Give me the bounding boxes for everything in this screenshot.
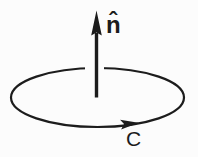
- curve-gap-mask: [85, 62, 104, 74]
- normal-vector-loop-diagram: n̂ C: [0, 0, 198, 157]
- curve-label: C: [126, 127, 141, 150]
- normal-vector-label: n̂: [106, 11, 121, 38]
- diagram-canvas: n̂ C: [0, 0, 198, 157]
- normal-vector-arrowhead-icon: [91, 11, 102, 36]
